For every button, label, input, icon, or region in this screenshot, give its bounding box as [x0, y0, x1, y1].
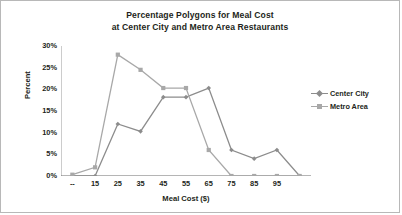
x-axis-label: Meal Cost ($)	[61, 194, 311, 203]
series-marker	[116, 53, 120, 57]
x-tick-label: 95	[262, 179, 292, 188]
series-marker	[206, 86, 211, 91]
series-line	[72, 55, 299, 176]
y-tick-label: 20%	[31, 84, 57, 93]
chart-legend: Center CityMetro Area	[311, 87, 369, 113]
legend-square-marker-icon	[311, 102, 328, 111]
series-marker	[229, 174, 233, 176]
y-tick-label: 30%	[31, 41, 57, 50]
series-marker	[93, 165, 97, 169]
y-tick-label: 5%	[31, 149, 57, 158]
data-series-group	[70, 53, 302, 176]
chart-figure: Percentage Polygons for Meal Cost at Cen…	[0, 0, 400, 213]
legend-label: Metro Area	[330, 102, 368, 111]
series-marker	[161, 86, 165, 90]
series-marker	[184, 95, 189, 100]
axis-lines	[61, 46, 311, 176]
plot-area	[61, 46, 311, 176]
y-tick-label: 25%	[31, 63, 57, 72]
series-marker	[70, 173, 74, 176]
chart-title: Percentage Polygons for Meal Cost at Cen…	[1, 10, 399, 33]
series-marker	[298, 174, 302, 176]
chart-title-line-2: at Center City and Metro Area Restaurant…	[1, 22, 399, 34]
series-canvas	[61, 46, 311, 176]
series-marker	[138, 68, 142, 72]
series-marker	[116, 122, 121, 127]
series-marker	[184, 86, 188, 90]
chart-title-line-1: Percentage Polygons for Meal Cost	[1, 10, 399, 22]
legend-diamond-marker-icon	[311, 89, 328, 98]
series-marker	[207, 148, 211, 152]
y-axis-tick-labels: 0%5%10%15%20%25%30%	[29, 1, 57, 215]
series-line	[72, 88, 299, 176]
y-tick-label: 0%	[31, 171, 57, 180]
series-marker	[252, 174, 256, 176]
legend-item: Center City	[311, 87, 369, 100]
y-tick-label: 10%	[31, 128, 57, 137]
y-tick-label: 15%	[31, 106, 57, 115]
legend-label: Center City	[330, 89, 369, 98]
series-marker	[275, 174, 279, 176]
legend-item: Metro Area	[311, 100, 369, 113]
series-marker	[252, 156, 257, 161]
series-marker	[229, 148, 234, 153]
series-marker	[93, 174, 98, 176]
